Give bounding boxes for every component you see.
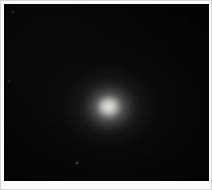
detector-noise-overlay [4,4,209,181]
image-viewer [0,0,212,190]
sky-field [4,4,209,181]
